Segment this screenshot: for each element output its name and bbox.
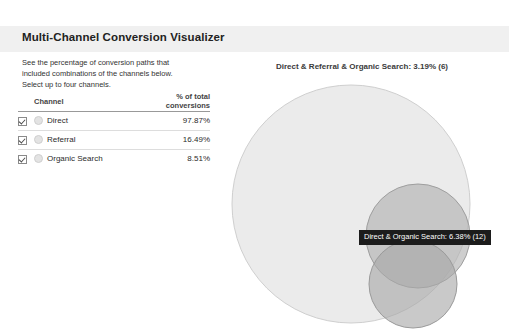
column-header-percent-line-2: conversions	[148, 101, 210, 110]
table-row[interactable]: Organic Search 8.51%	[18, 149, 210, 168]
channel-label-referral: Referral	[47, 135, 75, 144]
column-header-checkbox	[18, 92, 34, 111]
table-row[interactable]: Referral 16.49%	[18, 130, 210, 149]
row-percent-referral: 16.49%	[148, 130, 210, 149]
row-checkbox-cell[interactable]	[18, 111, 34, 130]
column-header-percent: % of total conversions	[148, 92, 210, 111]
table-row[interactable]: Direct 97.87%	[18, 111, 210, 130]
row-channel-cell: Organic Search	[34, 149, 148, 168]
description-text: See the percentage of conversion paths t…	[22, 58, 202, 91]
table-header-row: Channel % of total conversions	[18, 92, 210, 111]
row-percent-organic-search: 8.51%	[148, 149, 210, 168]
channel-label-organic-search: Organic Search	[47, 154, 103, 163]
checkbox-direct[interactable]	[18, 117, 27, 126]
description-line-2: included combinations of the channels be…	[22, 69, 202, 80]
channel-label-direct: Direct	[47, 116, 68, 125]
row-channel-cell: Referral	[34, 130, 148, 149]
row-checkbox-cell[interactable]	[18, 130, 34, 149]
row-channel-cell: Direct	[34, 111, 148, 130]
venn-circle-referral[interactable]	[369, 240, 457, 328]
description-line-1: See the percentage of conversion paths t…	[22, 58, 202, 69]
row-checkbox-cell[interactable]	[18, 149, 34, 168]
row-percent-direct: 97.87%	[148, 111, 210, 130]
venn-tooltip: Direct & Organic Search: 6.38% (12)	[359, 230, 491, 245]
description-line-3: Select up to four channels.	[22, 80, 202, 91]
color-swatch-icon	[34, 154, 43, 163]
column-header-channel: Channel	[34, 92, 148, 111]
column-header-percent-line-1: % of total	[148, 92, 210, 101]
color-swatch-icon	[34, 116, 43, 125]
checkbox-referral[interactable]	[18, 136, 27, 145]
app-page: Multi-Channel Conversion Visualizer See …	[0, 0, 509, 335]
color-swatch-icon	[34, 135, 43, 144]
channel-table: Channel % of total conversions Direct 97…	[18, 92, 210, 168]
page-title: Multi-Channel Conversion Visualizer	[22, 31, 225, 43]
venn-chart-area: Direct & Referral & Organic Search: 3.19…	[215, 55, 509, 335]
checkbox-organic-search[interactable]	[18, 155, 27, 164]
venn-diagram	[215, 55, 509, 335]
